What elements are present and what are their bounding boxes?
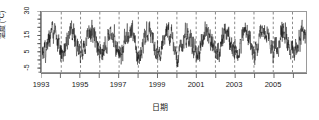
y-tick-neg5: -5 [23,61,30,75]
x-tick-1999: 1999 [149,80,166,89]
x-axis [41,73,307,79]
x-axis-title: 日期 [0,101,319,112]
y-axis: 30 15 5 -5 [33,11,41,73]
y-tick-30: 30 [23,4,30,18]
x-tick-1993: 1993 [33,80,50,89]
y-tick-15: 15 [23,28,30,42]
chart-figure: 30 15 5 -5 温度 (°C) 1993 1995 1997 1999 2… [0,0,319,120]
x-tick-2001: 2001 [188,80,205,89]
series-daily-temperature [42,12,306,72]
plot-panel [41,11,307,73]
x-tick-2005: 2005 [265,80,282,89]
x-tick-1997: 1997 [110,80,127,89]
y-tick-5: 5 [23,45,30,59]
x-tick-2003: 2003 [226,80,243,89]
y-axis-title: 温度 (°C) [0,2,6,48]
x-tick-1995: 1995 [72,80,89,89]
chart-title [0,0,319,5]
